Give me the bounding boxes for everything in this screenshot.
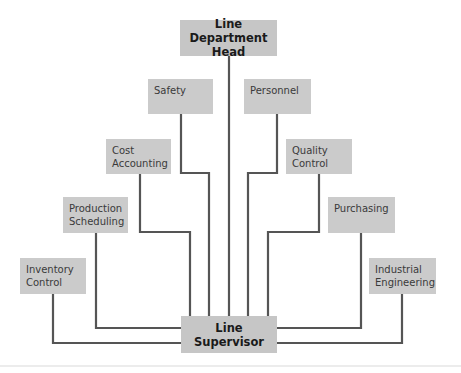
connector-personnel bbox=[248, 114, 277, 316]
personnel-box: Personnel bbox=[244, 79, 311, 114]
industrial-engineering-box: Industrial Engineering bbox=[369, 258, 436, 294]
purchasing-label: Purchasing bbox=[334, 202, 389, 215]
production-scheduling-label: Production Scheduling bbox=[69, 202, 122, 228]
industrial-engineering-label: Industrial Engineering bbox=[375, 263, 430, 289]
inventory-control-box: Inventory Control bbox=[20, 258, 86, 294]
cost-accounting-box: Cost Accounting bbox=[106, 139, 171, 174]
quality-control-box: Quality Control bbox=[286, 139, 352, 174]
connector-industrial-engineering bbox=[277, 294, 402, 343]
bottom-divider bbox=[0, 365, 461, 367]
line-supervisor-box: Line Supervisor bbox=[181, 316, 277, 353]
inventory-control-label: Inventory Control bbox=[26, 263, 80, 289]
line-department-head-box: Line Department Head bbox=[180, 20, 277, 56]
purchasing-box: Purchasing bbox=[328, 197, 395, 233]
safety-label: Safety bbox=[154, 84, 207, 97]
personnel-label: Personnel bbox=[250, 84, 305, 97]
quality-control-label: Quality Control bbox=[292, 144, 346, 170]
connector-quality-control bbox=[268, 174, 319, 316]
connector-production-scheduling bbox=[96, 233, 181, 328]
safety-box: Safety bbox=[148, 79, 213, 114]
production-scheduling-box: Production Scheduling bbox=[63, 197, 128, 233]
connector-cost-accounting bbox=[140, 174, 190, 316]
connector-safety bbox=[181, 114, 209, 316]
connector-inventory-control bbox=[53, 294, 181, 343]
line-supervisor-label: Line Supervisor bbox=[184, 321, 274, 349]
line-department-head-label: Line Department Head bbox=[183, 17, 274, 59]
connector-purchasing bbox=[277, 233, 361, 328]
cost-accounting-label: Cost Accounting bbox=[112, 144, 165, 170]
